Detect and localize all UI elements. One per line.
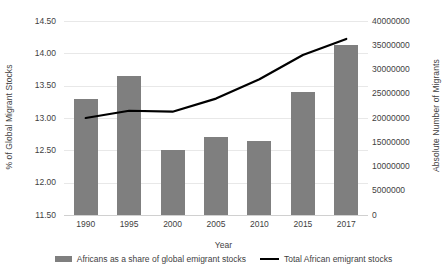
- right-tick-label: 25000000: [372, 89, 410, 98]
- left-tick-label: 12.50: [0, 146, 56, 155]
- legend-label-bars: Africans as a share of global emigrant s…: [77, 254, 246, 264]
- legend-label-line: Total African emigrant stocks: [284, 254, 392, 264]
- x-tick-label-2015: 2015: [283, 219, 323, 229]
- x-tick-label-2010: 2010: [239, 219, 279, 229]
- right-tick-label: 10000000: [372, 162, 410, 171]
- right-tick-label: 40000000: [372, 17, 410, 26]
- right-tick-label: 5000000: [372, 186, 405, 195]
- left-tick-label: 13.50: [0, 81, 56, 90]
- left-tick-label: 11.50: [0, 211, 56, 220]
- x-tick-label-2017: 2017: [326, 219, 366, 229]
- legend-item-bars: Africans as a share of global emigrant s…: [55, 254, 246, 264]
- left-tick-label: 14.50: [0, 17, 56, 26]
- gridline: [64, 215, 368, 216]
- right-tick-label: 35000000: [372, 41, 410, 50]
- left-tick-label: 12.00: [0, 178, 56, 187]
- x-tick-label-2000: 2000: [153, 219, 193, 229]
- bar-swatch-icon: [55, 256, 72, 262]
- x-axis-title: Year: [0, 240, 447, 250]
- line-path: [86, 39, 347, 118]
- x-tick-label-2005: 2005: [196, 219, 236, 229]
- right-tick-label: 20000000: [372, 114, 410, 123]
- x-tick-label-1995: 1995: [109, 219, 149, 229]
- right-tick-label: 0: [372, 211, 377, 220]
- x-tick-label-1990: 1990: [66, 219, 106, 229]
- line-series: [64, 21, 368, 215]
- plot-area: [64, 21, 368, 215]
- legend-item-line: Total African emigrant stocks: [260, 254, 392, 264]
- chart-container: % of Global Migrant Stocks Absolute Numb…: [0, 0, 447, 279]
- right-axis-title: Absolute Number of Migrants: [431, 62, 441, 172]
- left-tick-label: 14.00: [0, 49, 56, 58]
- right-tick-label: 30000000: [372, 65, 410, 74]
- line-swatch-icon: [260, 258, 279, 261]
- left-tick-label: 13.00: [0, 114, 56, 123]
- chart-legend: Africans as a share of global emigrant s…: [0, 254, 447, 264]
- right-tick-label: 15000000: [372, 138, 410, 147]
